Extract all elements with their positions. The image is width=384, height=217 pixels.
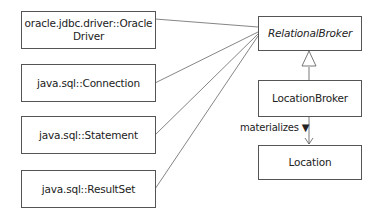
class-oracle-driver: oracle.jdbc.driver::Oracle Driver: [21, 11, 156, 49]
class-location-broker: LocationBroker: [258, 80, 362, 117]
class-name: RelationalBroker: [268, 27, 352, 40]
class-name: LocationBroker: [272, 92, 348, 105]
materializes-label: materializes ▼: [240, 122, 309, 133]
class-name: Location: [289, 156, 332, 169]
generalization-triangle-icon: [302, 51, 316, 66]
association-oracle-driver: [155, 19, 258, 27]
class-name: java.sql::ResultSet: [42, 183, 135, 196]
class-connection: java.sql::Connection: [21, 64, 156, 102]
class-name-line2: Driver: [73, 30, 104, 43]
association-statement: [155, 34, 258, 135]
class-relational-broker: RelationalBroker: [258, 16, 362, 51]
class-name: java.sql::Statement: [39, 129, 138, 142]
class-statement: java.sql::Statement: [21, 116, 156, 154]
class-location: Location: [258, 145, 362, 180]
class-name: java.sql::Connection: [37, 77, 140, 90]
class-resultset: java.sql::ResultSet: [21, 170, 156, 208]
association-resultset: [155, 36, 258, 189]
association-connection: [155, 32, 258, 83]
class-name-line1: oracle.jdbc.driver::Oracle: [25, 17, 153, 30]
